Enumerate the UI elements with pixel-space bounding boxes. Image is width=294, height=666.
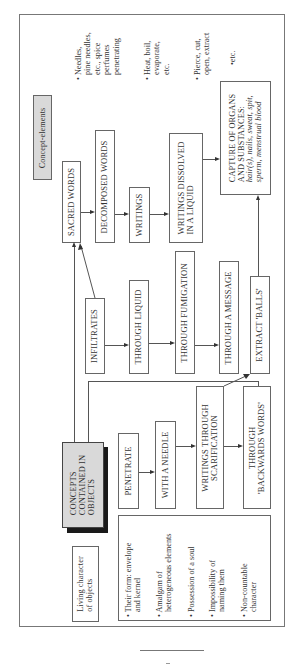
edge-scarification-backwards <box>224 446 239 447</box>
arrowhead-icon <box>256 195 260 200</box>
edge-root-bracket-vertical <box>88 381 89 442</box>
diagonal-edges <box>0 0 294 666</box>
footer-rule <box>140 650 204 651</box>
page-mark <box>166 663 170 664</box>
edge-root-bracket-horizontal <box>88 381 258 382</box>
arrowhead-icon <box>72 242 76 247</box>
arrowhead-icon <box>150 470 155 474</box>
arrowhead-icon <box>191 444 196 448</box>
edge-extract-capture <box>258 199 259 276</box>
edge-root-sacred <box>74 246 75 442</box>
edge-needle-scarification <box>176 446 192 447</box>
arrowhead-icon <box>238 444 243 448</box>
edge-bracket-backwards <box>258 381 259 386</box>
